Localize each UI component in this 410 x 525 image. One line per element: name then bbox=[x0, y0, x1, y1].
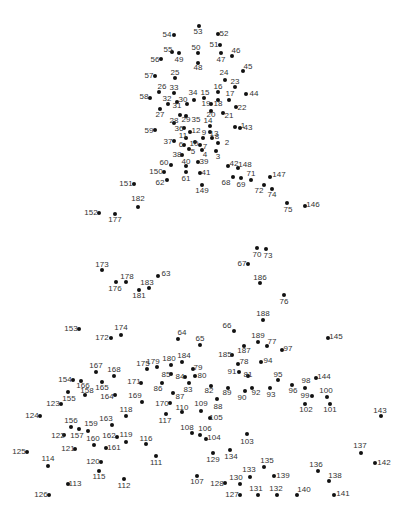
dot-label: 99 bbox=[301, 392, 310, 400]
dot-label: 96 bbox=[289, 387, 298, 395]
dot-label: 86 bbox=[154, 385, 163, 393]
dot-80 bbox=[193, 374, 197, 378]
dot-label: 78 bbox=[240, 358, 249, 366]
dot-label: 143 bbox=[373, 407, 386, 415]
dot-label: 119 bbox=[120, 431, 133, 439]
dot-label: 153 bbox=[64, 325, 77, 333]
dot-label: 90 bbox=[238, 394, 247, 402]
dot-label: 174 bbox=[114, 324, 127, 332]
dot-66 bbox=[232, 329, 236, 333]
dot-label: 98 bbox=[302, 377, 311, 385]
dot-label: 162 bbox=[102, 432, 115, 440]
dot-label: 129 bbox=[206, 456, 219, 464]
dot-label: 62 bbox=[156, 179, 165, 187]
dot-label: 84 bbox=[176, 373, 185, 381]
dot-label: 147 bbox=[272, 171, 285, 179]
dot-label: 117 bbox=[159, 417, 172, 425]
dot-label: 185 bbox=[218, 351, 231, 359]
dot-188 bbox=[261, 318, 265, 322]
dot-159 bbox=[86, 429, 90, 433]
dot-label: 154 bbox=[58, 376, 71, 384]
dot-label: 34 bbox=[189, 89, 198, 97]
dot-label: 118 bbox=[120, 406, 133, 414]
dot-172 bbox=[109, 336, 113, 340]
dot-37 bbox=[172, 139, 176, 143]
dot-label: 160 bbox=[86, 435, 99, 443]
dot-label: 177 bbox=[108, 216, 121, 224]
dot-137 bbox=[359, 451, 363, 455]
dot-label: 109 bbox=[194, 400, 207, 408]
dot-68 bbox=[231, 175, 235, 179]
dot-label: 60 bbox=[160, 159, 169, 167]
dot-label: 105 bbox=[209, 414, 222, 422]
dot-label: 122 bbox=[51, 432, 64, 440]
dot-label: 123 bbox=[46, 400, 59, 408]
dot-100 bbox=[325, 395, 329, 399]
dot-60 bbox=[169, 163, 173, 167]
dot-label: 3 bbox=[216, 153, 220, 161]
dot-54 bbox=[172, 33, 176, 37]
dot-label: 137 bbox=[353, 442, 366, 450]
dot-label: 38 bbox=[173, 151, 182, 159]
dot-label: 56 bbox=[151, 56, 160, 64]
dot-label: 149 bbox=[195, 187, 208, 195]
dot-label: 92 bbox=[252, 389, 261, 397]
dot-label: 150 bbox=[149, 168, 162, 176]
dot-label: 61 bbox=[182, 175, 191, 183]
dot-label: 102 bbox=[299, 406, 312, 414]
dot-label: 170 bbox=[155, 400, 168, 408]
dot-label: 87 bbox=[176, 393, 185, 401]
dot-label: 24 bbox=[220, 69, 229, 77]
dot-label: 46 bbox=[232, 47, 241, 55]
dot-label: 168 bbox=[107, 366, 120, 374]
dot-label: 115 bbox=[93, 473, 106, 481]
dot-label: 23 bbox=[231, 78, 240, 86]
dot-7 bbox=[198, 143, 202, 147]
dot-label: 127 bbox=[225, 491, 238, 499]
dot-label: 59 bbox=[145, 127, 154, 135]
dot-182 bbox=[136, 205, 140, 209]
dot-label: 133 bbox=[242, 466, 255, 474]
dot-label: 54 bbox=[163, 31, 172, 39]
dot-label: 104 bbox=[207, 434, 220, 442]
dot-label: 101 bbox=[323, 406, 336, 414]
dot-63 bbox=[156, 274, 160, 278]
dot-label: 93 bbox=[267, 391, 276, 399]
dot-label: 94 bbox=[264, 357, 273, 365]
dot-label: 37 bbox=[164, 138, 173, 146]
dot-44 bbox=[244, 92, 248, 96]
dot-136 bbox=[316, 469, 320, 473]
dot-label: 45 bbox=[244, 63, 253, 71]
dot-label: 75 bbox=[284, 206, 293, 214]
dot-label: 77 bbox=[268, 338, 277, 346]
dot-label: 184 bbox=[177, 352, 190, 360]
dot-87 bbox=[171, 391, 175, 395]
dot-label: 33 bbox=[170, 84, 179, 92]
dot-label: 114 bbox=[42, 455, 55, 463]
dot-label: 113 bbox=[69, 480, 82, 488]
dot-174 bbox=[119, 333, 123, 337]
dot-label: 124 bbox=[25, 412, 38, 420]
dot-label: 144 bbox=[317, 373, 330, 381]
dot-2 bbox=[216, 141, 220, 145]
dot-62 bbox=[165, 178, 169, 182]
dot-label: 65 bbox=[196, 335, 205, 343]
dot-label: 180 bbox=[162, 355, 175, 363]
dot-label: 178 bbox=[120, 273, 133, 281]
dot-label: 72 bbox=[255, 187, 264, 195]
dot-156 bbox=[69, 425, 73, 429]
dot-label: 146 bbox=[306, 201, 319, 209]
dot-label: 116 bbox=[140, 435, 153, 443]
dot-label: 9 bbox=[202, 129, 206, 137]
dot-label: 66 bbox=[223, 322, 232, 330]
dot-label: 35 bbox=[192, 116, 201, 124]
dot-label: 44 bbox=[250, 90, 259, 98]
dot-34 bbox=[192, 98, 196, 102]
dot-label: 169 bbox=[128, 392, 141, 400]
dot-label: 179 bbox=[146, 358, 159, 366]
dot-label: 97 bbox=[284, 345, 293, 353]
dot-label: 134 bbox=[224, 453, 237, 461]
dot-label: 121 bbox=[61, 445, 74, 453]
dot-label: 12 bbox=[192, 127, 201, 135]
dot-51 bbox=[218, 43, 222, 47]
